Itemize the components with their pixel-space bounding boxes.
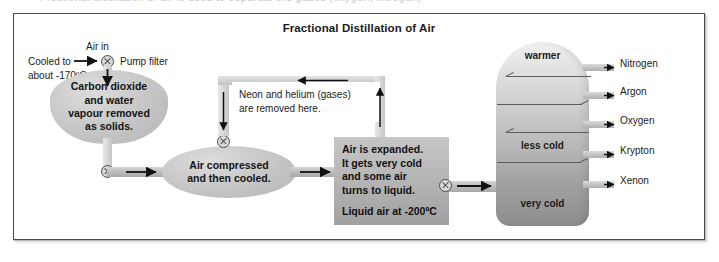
figure-frame: Fractional Distillation of Air Air in Co… bbox=[13, 13, 705, 240]
output-label-nitrogen: Nitrogen bbox=[620, 58, 658, 69]
expander-liquid-air-label: Liquid air at -200ºC bbox=[342, 205, 437, 219]
output-stub-krypton bbox=[583, 151, 614, 158]
column-label-very-cold: very cold bbox=[496, 198, 589, 209]
expander-line4: turns to liquid. bbox=[342, 184, 415, 196]
output-label-argon: Argon bbox=[620, 86, 647, 97]
column-label-warmer: warmer bbox=[496, 50, 589, 61]
cropped-caption-text: Fractional distillation of air is used t… bbox=[40, 0, 421, 3]
stage-co2-removal: Carbon dioxide and water vapour removed … bbox=[50, 70, 168, 144]
output-stub-argon bbox=[583, 92, 614, 99]
column-tray-2 bbox=[497, 104, 582, 105]
cropped-caption-sliver: Fractional distillation of air is used t… bbox=[0, 0, 719, 9]
diagram-canvas: Fractional Distillation of Air Air in Co… bbox=[14, 14, 704, 239]
label-air-in: Air in bbox=[86, 40, 109, 54]
output-label-krypton: Krypton bbox=[620, 145, 654, 156]
pipe-neon-loop-left bbox=[218, 76, 229, 136]
co2-line4: as solids. bbox=[85, 120, 133, 132]
expander-line3: and some air bbox=[342, 170, 407, 182]
callout-neon-helium: Neon and helium (gases) are removed here… bbox=[232, 82, 380, 122]
pipe-expander-to-column bbox=[447, 181, 502, 192]
co2-line2: and water bbox=[84, 94, 133, 106]
neon-line1: Neon and helium (gases) bbox=[239, 89, 351, 100]
label-pump-filter: Pump filter bbox=[120, 55, 168, 69]
label-cooled-line1: Cooled to bbox=[28, 56, 71, 67]
pipe-compressor-to-expander bbox=[290, 167, 340, 177]
stage-compressor: Air compressed and then cooled. bbox=[162, 146, 296, 198]
output-stub-oxygen bbox=[583, 121, 614, 128]
output-stub-nitrogen bbox=[583, 64, 614, 71]
output-label-oxygen: Oxygen bbox=[620, 115, 654, 126]
valve-cross-icon-compressor-top bbox=[217, 135, 230, 148]
page-title: Fractional Distillation of Air bbox=[14, 22, 704, 34]
column-tray-3 bbox=[507, 132, 589, 133]
expander-line1: Air is expanded. bbox=[342, 143, 423, 155]
pipe-co2-down bbox=[103, 138, 112, 167]
column-tray-4 bbox=[497, 162, 581, 163]
valve-cross-icon-before-column bbox=[439, 179, 452, 192]
neon-line2: are removed here. bbox=[239, 103, 321, 114]
compressor-line1: Air compressed bbox=[189, 159, 268, 171]
output-stub-xenon bbox=[583, 181, 614, 188]
co2-line1: Carbon dioxide bbox=[71, 80, 147, 92]
stage-expander: Air is expanded. It gets very cold and s… bbox=[334, 137, 449, 225]
output-label-xenon: Xenon bbox=[620, 175, 649, 186]
compressor-line2: and then cooled. bbox=[187, 172, 270, 184]
co2-line3: vapour removed bbox=[68, 107, 150, 119]
column-label-less-cold: less cold bbox=[496, 140, 589, 151]
expander-line2: It gets very cold bbox=[342, 157, 422, 169]
column-tray-1 bbox=[507, 76, 591, 77]
